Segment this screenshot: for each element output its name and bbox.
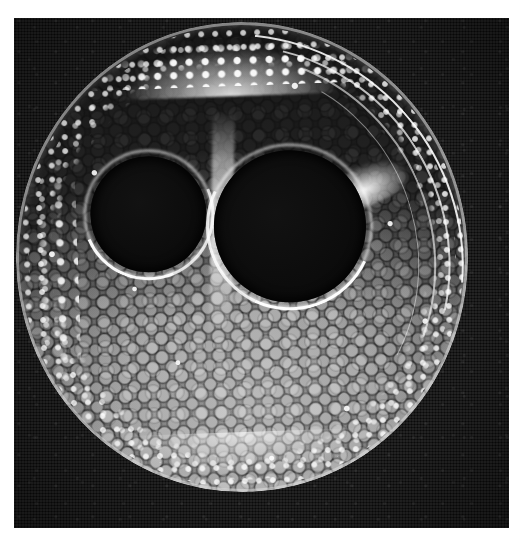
micrograph-frame: [14, 18, 509, 528]
left-edge-speckle-band: [14, 138, 84, 420]
bottom-rim-highlight: [82, 427, 404, 492]
screenshot-canvas: Grayscale circular cross-section of a pl…: [0, 0, 527, 544]
top-crest-speckle: [68, 22, 400, 91]
